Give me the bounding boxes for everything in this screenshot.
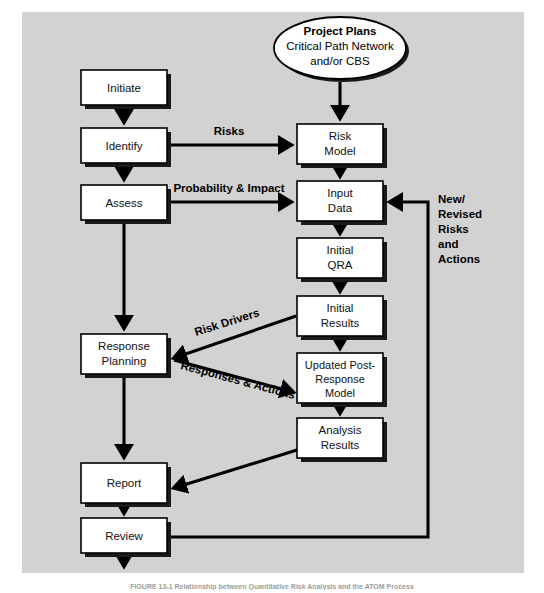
node-updated-post-response-model[interactable]: Updated Post- Response Model	[297, 353, 387, 407]
edge-label-risks: Risks	[214, 125, 245, 137]
node-analysis-results[interactable]: Analysis Results	[297, 418, 387, 462]
side-label-risks: Risks	[438, 223, 469, 235]
node-risk-model[interactable]: Risk Model	[297, 124, 387, 168]
risk-model-line1: Risk	[329, 130, 352, 142]
node-assess[interactable]: Assess	[81, 185, 171, 224]
node-initial-qra[interactable]: Initial QRA	[297, 238, 387, 282]
report-label: Report	[107, 477, 142, 489]
initial-results-line2: Results	[321, 317, 360, 329]
edge-label-responses-actions: Responses & Actions	[180, 359, 297, 401]
project-plans-line3: and/or CBS	[310, 55, 370, 67]
project-plans-title: Project Plans	[304, 25, 377, 37]
node-response-planning[interactable]: Response Planning	[81, 334, 171, 378]
review-label: Review	[105, 530, 143, 542]
analysis-results-line1: Analysis	[319, 424, 362, 436]
project-plans-line2: Critical Path Network	[286, 40, 394, 52]
flowchart-svg: Project Plans Critical Path Network and/…	[0, 0, 544, 593]
initiate-label: Initiate	[107, 82, 141, 94]
updated-model-line3: Model	[325, 387, 355, 399]
initial-results-line1: Initial	[327, 302, 354, 314]
edge-analysisresults-report	[174, 450, 297, 488]
initial-qra-line1: Initial	[327, 244, 354, 256]
node-review[interactable]: Review	[81, 518, 171, 557]
response-planning-line1: Response	[98, 340, 150, 352]
node-initiate[interactable]: Initiate	[81, 70, 171, 109]
edge-label-probability-impact: Probability & Impact	[173, 182, 284, 194]
side-label-revised: Revised	[438, 208, 482, 220]
assess-label: Assess	[105, 197, 142, 209]
side-label-and: and	[438, 238, 458, 250]
node-input-data[interactable]: Input Data	[297, 181, 387, 225]
initial-qra-line2: QRA	[328, 259, 353, 271]
figure-container: Project Plans Critical Path Network and/…	[0, 0, 544, 593]
side-label-new: New/	[438, 193, 466, 205]
side-label-actions: Actions	[438, 253, 480, 265]
updated-model-line1: Updated Post-	[305, 359, 376, 371]
response-planning-line2: Planning	[102, 355, 147, 367]
identify-label: Identify	[105, 140, 142, 152]
updated-model-line2: Response	[315, 373, 365, 385]
figure-caption: FIGURE 13-1 Relationship between Quantit…	[0, 583, 544, 590]
node-report[interactable]: Report	[81, 463, 171, 507]
analysis-results-line2: Results	[321, 439, 360, 451]
risk-model-line2: Model	[324, 145, 355, 157]
edge-label-new-revised-risks-actions: New/ Revised Risks and Actions	[438, 193, 482, 265]
input-data-line2: Data	[328, 202, 353, 214]
node-identify[interactable]: Identify	[81, 128, 171, 167]
node-project-plans[interactable]: Project Plans Critical Path Network and/…	[274, 17, 409, 82]
input-data-line1: Input	[327, 187, 353, 199]
node-initial-results[interactable]: Initial Results	[297, 296, 387, 340]
